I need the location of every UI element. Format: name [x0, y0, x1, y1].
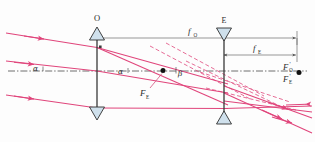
label-FOprime-prime: ' — [290, 60, 291, 67]
incoming-ray-upper — [6, 33, 97, 48]
objective-lower-triangle-icon — [90, 107, 105, 120]
point-focus-image-pair — [297, 70, 302, 75]
virtual-line-1 — [150, 46, 252, 100]
eyepiece-lower-triangle-icon — [217, 111, 232, 124]
label-FE-subscript: E — [146, 94, 149, 100]
intermediate-ray-b — [97, 71, 228, 93]
label-FEprime-prime: ' — [290, 72, 291, 79]
label-FOprime-main: F — [282, 62, 289, 72]
virtual-extension-lines — [150, 43, 296, 110]
label-FE-main: F — [139, 88, 146, 98]
objective-lens[interactable] — [90, 27, 105, 120]
label-focus-eyepiece-front: F E — [139, 88, 149, 100]
point-focus-eyepiece-front — [161, 68, 166, 73]
incoming-ray-arrowheads — [14, 36, 44, 99]
label-focal-length-objective: f O — [188, 26, 198, 38]
label-focal-length-eyepiece: f E — [253, 43, 261, 55]
label-angle-alpha-mid: α — [118, 67, 123, 76]
intermediate-ray-bundle — [97, 48, 228, 109]
label-FEprime-main: F — [282, 74, 289, 84]
eyepiece-lens[interactable] — [217, 28, 232, 124]
virtual-line-3 — [186, 61, 282, 107]
outgoing-ray-bundle — [224, 86, 312, 133]
ray-diagram-figure: O E f O f E α α β F E F O ' F E ' — [0, 0, 315, 142]
intermediate-ray-c — [97, 108, 228, 109]
optics-diagram-canvas: O E f O f E α α β F E F O ' F E ' — [0, 0, 315, 142]
label-focus-objective-image: F O ' — [282, 60, 293, 74]
leader-line-focus-eyepiece — [150, 74, 162, 89]
arrowhead-outgoing-4 — [286, 104, 306, 105]
label-fe-main: f — [253, 43, 257, 53]
intermediate-ray-a — [97, 48, 228, 106]
label-fo-main: f — [188, 26, 192, 36]
label-fo-subscript: O — [194, 32, 198, 38]
arrowhead-incoming-upper — [24, 36, 44, 39]
label-FEprime-subscript: E — [289, 79, 292, 85]
label-angle-beta: β — [177, 69, 183, 78]
label-fe-subscript: E — [258, 49, 261, 55]
label-angle-alpha-left: α — [33, 64, 38, 73]
arrowhead-incoming-lower — [14, 96, 34, 99]
label-objective: O — [94, 13, 100, 23]
objective-vertex-marker — [99, 46, 102, 49]
eyepiece-upper-triangle-icon — [217, 28, 232, 41]
arrowhead-outgoing-3 — [272, 117, 292, 123]
objective-upper-triangle-icon — [90, 27, 105, 40]
label-eyepiece: E — [222, 16, 227, 25]
arrowhead-outgoing-2 — [262, 110, 282, 119]
label-focus-eyepiece-image: F E ' — [282, 72, 292, 86]
